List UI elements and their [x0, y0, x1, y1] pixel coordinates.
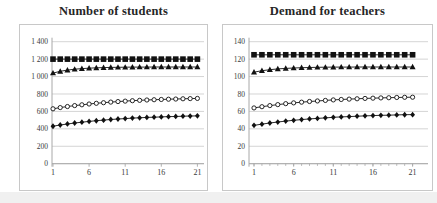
- svg-text:11: 11: [329, 168, 337, 177]
- series-lower-diamonds: [252, 112, 415, 129]
- svg-text:80: 80: [238, 90, 246, 99]
- teachers-chart: 02040608010012014016111621: [223, 25, 432, 190]
- svg-text:120: 120: [234, 55, 246, 64]
- series-capacity-squares: [251, 52, 415, 58]
- svg-text:1 200: 1 200: [31, 55, 48, 64]
- svg-text:6: 6: [87, 168, 91, 177]
- series-lower-diamonds: [51, 113, 200, 129]
- svg-text:60: 60: [238, 107, 246, 116]
- svg-text:16: 16: [369, 168, 377, 177]
- x-axis-ticks-labels: 16111621: [252, 164, 417, 177]
- teachers-chart-box: 02040608010012014016111621: [222, 24, 433, 191]
- series-upper-triangles: [251, 64, 416, 75]
- svg-text:40: 40: [238, 124, 246, 133]
- gridlines: [249, 42, 428, 164]
- left-chart-title: Number of students: [19, 2, 208, 20]
- students-chart-box: 02004006008001 0001 2001 40016111621: [19, 24, 208, 191]
- svg-text:1: 1: [252, 168, 256, 177]
- svg-text:21: 21: [409, 168, 417, 177]
- svg-text:100: 100: [234, 72, 246, 81]
- svg-text:16: 16: [157, 168, 165, 177]
- figure-two-charts: Number of students Demand for teachers 0…: [0, 0, 437, 203]
- svg-text:800: 800: [37, 90, 49, 99]
- series-middle-open-circles: [51, 96, 200, 111]
- svg-text:1 000: 1 000: [31, 72, 48, 81]
- svg-text:0: 0: [241, 159, 245, 168]
- series-upper-triangles: [50, 64, 200, 76]
- page-bottom-margin: [0, 192, 437, 203]
- right-chart-title: Demand for teachers: [222, 2, 433, 20]
- y-axis-labels: 02004006008001 0001 2001 400: [31, 37, 48, 168]
- y-axis-labels: 020406080100120140: [234, 37, 246, 168]
- svg-text:600: 600: [37, 107, 49, 116]
- svg-text:400: 400: [37, 124, 49, 133]
- svg-text:21: 21: [193, 168, 201, 177]
- series-middle-open-circles: [252, 95, 415, 110]
- svg-text:11: 11: [121, 168, 129, 177]
- svg-text:20: 20: [238, 142, 246, 151]
- svg-text:1 400: 1 400: [31, 37, 48, 46]
- x-axis-ticks-labels: 16111621: [51, 164, 201, 177]
- svg-text:140: 140: [234, 37, 246, 46]
- students-chart: 02004006008001 0001 2001 40016111621: [20, 25, 207, 190]
- svg-text:1: 1: [51, 168, 55, 177]
- svg-text:0: 0: [44, 159, 48, 168]
- series-capacity-squares: [50, 56, 200, 62]
- svg-text:6: 6: [292, 168, 296, 177]
- svg-text:200: 200: [37, 142, 49, 151]
